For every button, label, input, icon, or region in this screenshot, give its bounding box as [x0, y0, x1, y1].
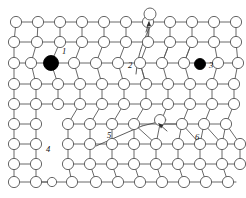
- lattice-atom: [184, 98, 195, 109]
- lattice-atom: [212, 57, 223, 68]
- lattice-atom: [186, 16, 197, 27]
- lattice-atom: [62, 118, 73, 129]
- diagram-canvas: 1 2 3 4 5 6: [0, 0, 246, 198]
- lattice-atom: [232, 57, 243, 68]
- interstitial-atom-3: [195, 59, 206, 70]
- lattice-atom: [47, 177, 56, 186]
- lattice-atom: [112, 57, 123, 68]
- lattice-atom: [90, 57, 101, 68]
- defect-label-5: 5: [107, 130, 111, 140]
- lattice-atom: [30, 176, 41, 187]
- defect-label-2: 2: [128, 60, 133, 70]
- lattice-atom: [128, 138, 139, 149]
- lattice-atom: [106, 138, 117, 149]
- lattice-atom: [96, 78, 107, 89]
- lattice-atom: [84, 158, 95, 169]
- lattice-atom: [118, 78, 129, 89]
- lattice-atom: [206, 98, 217, 109]
- defect-label-4: 4: [46, 144, 51, 154]
- lattice-atom: [8, 158, 19, 169]
- lattice-atom: [228, 98, 239, 109]
- lattice-atom: [222, 176, 233, 187]
- defect-label-3: 3: [208, 60, 213, 70]
- lattice-atom: [128, 118, 139, 129]
- lattice-atom: [30, 98, 41, 109]
- lattice-atom: [106, 118, 117, 129]
- lattice-atom: [162, 78, 173, 89]
- lattice-atom: [164, 36, 175, 47]
- lattice-atom: [8, 98, 19, 109]
- lattice-atom: [184, 78, 195, 89]
- lattice-atom: [230, 16, 241, 27]
- lattice-atom: [31, 36, 42, 47]
- lattice-atom: [25, 57, 36, 68]
- lattice-atom: [10, 16, 21, 27]
- lattice-atom: [68, 57, 79, 68]
- lattice-atom: [162, 98, 173, 109]
- lattice-atom: [140, 98, 151, 109]
- lattice-atom: [140, 78, 151, 89]
- lattice-atom: [194, 158, 205, 169]
- lattice-atom: [30, 78, 41, 89]
- lattice-atom: [98, 36, 109, 47]
- lattice-atom: [84, 118, 95, 129]
- lattice-atom: [32, 16, 43, 27]
- lattice-atom: [30, 138, 41, 149]
- lattice-atom: [156, 57, 167, 68]
- lattice-atom: [230, 36, 241, 47]
- lattice-atom: [142, 36, 153, 47]
- lattice-atom: [52, 98, 63, 109]
- lattice-atom: [234, 138, 245, 149]
- lattice-atom: [8, 78, 19, 89]
- lattice-atom: [66, 176, 77, 187]
- lattice-atom: [186, 36, 197, 47]
- lattice-atom: [8, 36, 19, 47]
- lattice-atom: [8, 57, 19, 68]
- lattice-atom: [206, 78, 217, 89]
- lattice-atom: [208, 16, 219, 27]
- lattice-atom: [90, 176, 101, 187]
- lattice-atom: [150, 138, 161, 149]
- lattice-atom: [120, 36, 131, 47]
- lattice-atom: [106, 158, 117, 169]
- lattice-atom: [234, 158, 245, 169]
- lattice-atom: [128, 158, 139, 169]
- lattice-atom: [198, 118, 209, 129]
- lattice-atom: [62, 158, 73, 169]
- lattice-atom: [8, 138, 19, 149]
- lattice-atom: [62, 138, 73, 149]
- lattice-atom: [8, 118, 19, 129]
- lattice-atom: [172, 138, 183, 149]
- lattice-atom: [8, 176, 19, 187]
- substitutional-atom-1: [44, 56, 59, 71]
- lattice-atom: [120, 16, 131, 27]
- adatom-icon: [144, 8, 156, 20]
- lattice-atom: [52, 78, 63, 89]
- atom-group: [8, 8, 245, 188]
- lattice-atom: [220, 118, 231, 129]
- lattice-atom: [216, 158, 227, 169]
- lattice-atom: [216, 138, 227, 149]
- lattice-atom: [178, 57, 189, 68]
- lattice-atom: [134, 57, 145, 68]
- lattice-atom: [178, 176, 189, 187]
- lattice-svg: 1 2 3 4 5 6: [0, 0, 246, 198]
- lattice-atom: [164, 16, 175, 27]
- lattice-atom: [76, 16, 87, 27]
- lattice-atom: [96, 98, 107, 109]
- lattice-atom: [134, 176, 145, 187]
- lattice-atom: [74, 78, 85, 89]
- lattice-atom: [112, 176, 123, 187]
- lattice-atom: [156, 176, 167, 187]
- lattice-atom: [200, 176, 211, 187]
- lattice-atom: [172, 158, 183, 169]
- lattice-atom: [84, 138, 95, 149]
- defect-label-1: 1: [62, 46, 66, 56]
- lattice-atom: [30, 118, 41, 129]
- lattice-atom: [118, 98, 129, 109]
- lattice-atom: [208, 36, 219, 47]
- lattice-atom: [54, 16, 65, 27]
- lattice-atom: [74, 98, 85, 109]
- lattice-atom: [150, 158, 161, 169]
- lattice-atom: [228, 78, 239, 89]
